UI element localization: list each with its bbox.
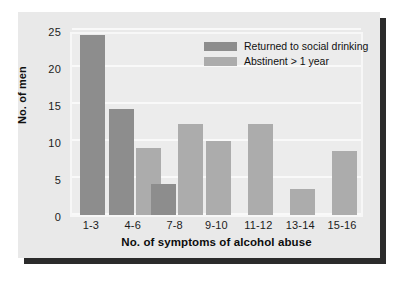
x-axis-tick-label: 13-14 <box>286 219 315 231</box>
y-axis-tick-label: 0 <box>21 211 61 223</box>
bar <box>109 109 134 215</box>
legend-swatch-icon <box>204 57 237 66</box>
y-axis-tick-label: 20 <box>21 63 61 75</box>
y-axis-tick-label: 5 <box>21 174 61 186</box>
bar <box>151 184 176 215</box>
bar <box>290 189 315 215</box>
y-axis: No. of men 0510152025 <box>18 32 68 217</box>
y-axis-tick-label: 25 <box>21 26 61 38</box>
y-axis-tick-label: 10 <box>21 137 61 149</box>
legend-item: Abstinent > 1 year <box>204 55 368 67</box>
bar <box>80 35 105 215</box>
bar <box>332 151 357 215</box>
y-axis-tick-label: 15 <box>21 100 61 112</box>
x-axis: 1-34-67-89-1011-1213-1415-16 <box>70 219 363 235</box>
legend-item: Returned to social drinking <box>204 40 368 52</box>
figure-card: No. of men 0510152025 1-34-67-89-1011-12… <box>18 12 380 258</box>
x-axis-tick-label: 9-10 <box>205 219 228 231</box>
bar <box>178 124 203 215</box>
bar <box>248 124 273 215</box>
legend-label: Abstinent > 1 year <box>244 55 329 67</box>
x-axis-tick-label: 4-6 <box>125 219 142 231</box>
chart-legend: Returned to social drinkingAbstinent > 1… <box>204 40 368 70</box>
x-axis-tick-label: 1-3 <box>83 219 100 231</box>
x-axis-tick-label: 11-12 <box>244 219 272 231</box>
bar <box>206 141 231 215</box>
legend-swatch-icon <box>204 42 237 51</box>
x-axis-title: No. of symptoms of alcohol abuse <box>70 236 363 248</box>
gridline <box>72 28 361 30</box>
legend-label: Returned to social drinking <box>244 40 368 52</box>
x-axis-tick-label: 7-8 <box>166 219 183 231</box>
x-axis-tick-label: 15-16 <box>327 219 356 231</box>
